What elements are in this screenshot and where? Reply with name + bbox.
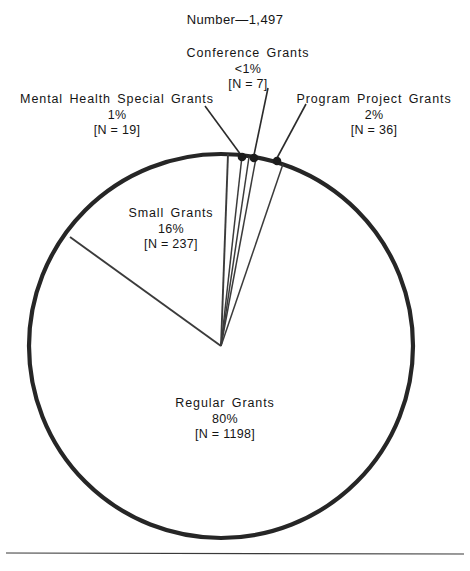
wedge-divider-small-regular	[70, 237, 221, 346]
wedge-divider-program-regular	[221, 164, 283, 346]
slice-label-conference-count: [N = 7]	[178, 77, 318, 93]
slice-label-mental-percent: 1%	[14, 108, 220, 124]
slice-label-regular-name: Regular Grants	[152, 396, 298, 412]
slice-label-program-project-grants: Program Project Grants 2% [N = 36]	[284, 92, 464, 139]
callout-dot-conference	[250, 154, 259, 163]
slice-label-program-count: [N = 36]	[284, 123, 464, 139]
callout-dot-program	[273, 157, 282, 166]
slice-label-program-percent: 2%	[284, 108, 464, 124]
leader-line-conference	[254, 88, 268, 155]
slice-label-conference-name: Conference Grants	[178, 46, 318, 62]
bottom-rule	[6, 553, 464, 554]
callout-dot-mental	[238, 153, 247, 162]
slice-label-mental-count: [N = 19]	[14, 123, 220, 139]
slice-label-small-percent: 16%	[106, 222, 236, 238]
slice-label-conference-grants: Conference Grants <1% [N = 7]	[178, 46, 318, 93]
slice-label-regular-grants: Regular Grants 80% [N = 1198]	[152, 396, 298, 443]
slice-label-mental-health-special-grants: Mental Health Special Grants 1% [N = 19]	[14, 92, 220, 139]
slice-label-small-count: [N = 237]	[106, 237, 236, 253]
slice-label-small-grants: Small Grants 16% [N = 237]	[106, 206, 236, 253]
slice-label-small-name: Small Grants	[106, 206, 236, 222]
slice-label-mental-name: Mental Health Special Grants	[14, 92, 220, 108]
slice-label-regular-percent: 80%	[152, 412, 298, 428]
slice-label-conference-percent: <1%	[178, 62, 318, 78]
slice-label-program-name: Program Project Grants	[284, 92, 464, 108]
slice-label-regular-count: [N = 1198]	[152, 427, 298, 443]
pie-chart-figure: Number—1,497 Conference Grants <1%	[0, 0, 470, 571]
